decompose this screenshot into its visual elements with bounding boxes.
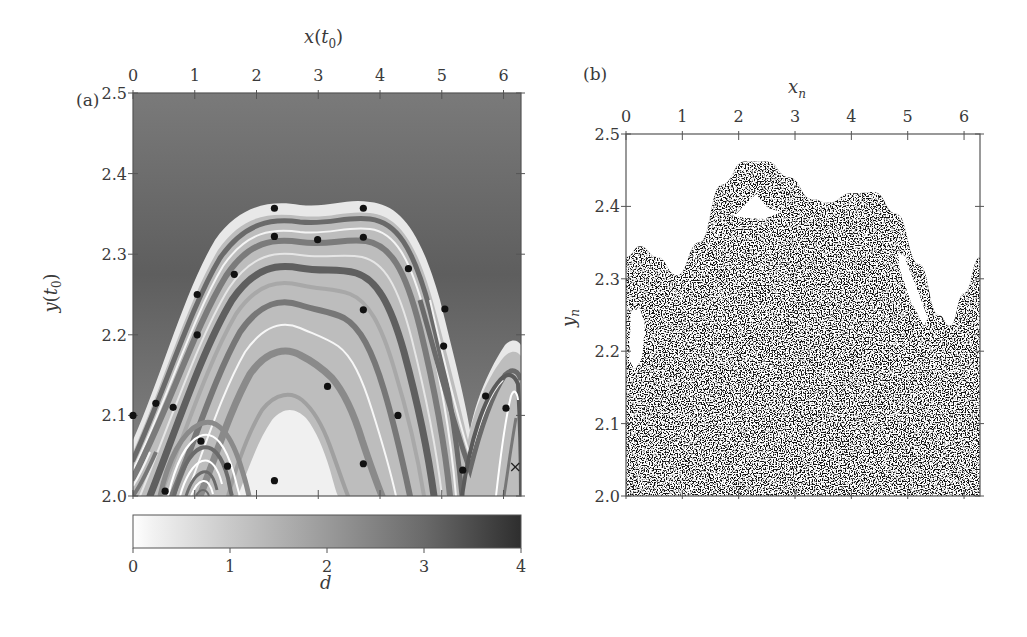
marker-point [441, 305, 448, 312]
marker-point [394, 412, 401, 419]
marker-point [194, 331, 201, 338]
marker-point [194, 291, 201, 298]
marker-point [360, 234, 367, 241]
marker-point [271, 233, 278, 240]
marker-point [314, 236, 321, 243]
panel-b-scatter [626, 134, 980, 496]
marker-point [152, 400, 159, 407]
marker-point [271, 205, 278, 212]
marker-point [170, 404, 177, 411]
marker-point [224, 463, 231, 470]
marker-point [459, 467, 466, 474]
panel-a-heatmap [133, 93, 521, 496]
marker-point [360, 460, 367, 467]
colorbar [133, 515, 521, 548]
colorbar-tick-marks [133, 548, 521, 553]
marker-point [360, 205, 367, 212]
figure-canvas [0, 0, 1027, 637]
marker-point [162, 488, 169, 495]
marker-point [231, 271, 238, 278]
marker-point [360, 306, 367, 313]
marker-point [197, 438, 204, 445]
marker-point [271, 477, 278, 484]
marker-point [324, 383, 331, 390]
marker-point [440, 342, 447, 349]
marker-point [129, 412, 136, 419]
marker-point [405, 265, 412, 272]
marker-point [502, 405, 509, 412]
marker-point [482, 392, 489, 399]
